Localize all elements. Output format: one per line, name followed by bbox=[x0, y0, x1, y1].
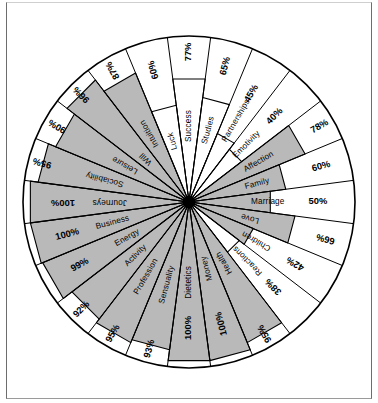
sector-percent-label: 100% bbox=[50, 198, 75, 209]
sector-percent-label: 100% bbox=[182, 315, 193, 340]
sector-percent-label: 40% bbox=[263, 105, 285, 127]
sector-percent-label: 78% bbox=[308, 116, 330, 135]
wheel-svg: SuccessStudiesPartnershipsEmotivityAffec… bbox=[0, 0, 378, 403]
wheel-center-hub bbox=[183, 196, 196, 209]
sector-category-label: Dietetics bbox=[184, 266, 193, 299]
sector-percent-label: 45% bbox=[241, 82, 260, 104]
sector-percent-label: 87% bbox=[102, 59, 121, 81]
center-hub bbox=[183, 196, 196, 209]
sector-percent-label: 60% bbox=[310, 158, 332, 174]
sector-percent-label: 66% bbox=[314, 232, 336, 248]
sector-percent-label: 38% bbox=[262, 276, 284, 298]
sectors-layer bbox=[30, 73, 305, 361]
sector-percent-label: 60% bbox=[145, 59, 161, 81]
sector-category-label: Marriage bbox=[251, 197, 285, 206]
sector-percent-label: 42% bbox=[283, 254, 305, 273]
sector-percent-label: 65% bbox=[217, 55, 233, 77]
sector-percent-label: 50% bbox=[309, 195, 328, 206]
radial-wheel-chart: SuccessStudiesPartnershipsEmotivityAffec… bbox=[0, 0, 378, 403]
sector-category-label: Success bbox=[184, 110, 193, 142]
sector-category-label: Journeys bbox=[93, 198, 127, 207]
page-root: SuccessStudiesPartnershipsEmotivityAffec… bbox=[0, 0, 378, 403]
sector-percent-label: 90% bbox=[45, 117, 67, 136]
sector-percent-label: 77% bbox=[182, 42, 193, 61]
